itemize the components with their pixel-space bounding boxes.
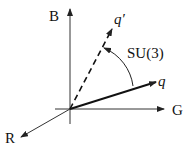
r-axis-label: R (5, 130, 15, 146)
g-axis-label: G (172, 102, 183, 118)
color-space-diagram: B G R q q′ SU(3) (0, 0, 193, 147)
q-vector (70, 82, 156, 109)
q-prime-label: q′ (114, 11, 126, 27)
r-axis (21, 109, 70, 137)
b-axis-label: B (49, 8, 59, 24)
su3-label: SU(3) (127, 45, 164, 62)
q-label: q (158, 73, 166, 89)
